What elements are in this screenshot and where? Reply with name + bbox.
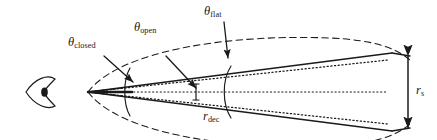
- theta-closed-label: θclosed: [68, 36, 96, 51]
- theta-open-label: θopen: [134, 21, 157, 36]
- closed-boundary-dashed: [88, 37, 412, 140]
- jet-apex: [88, 88, 132, 96]
- jet-geometry-figure: θclosed θopen θflat rdec rs: [0, 0, 437, 140]
- theta-flat-leader: [224, 22, 228, 58]
- r-dec-label: rdec: [203, 110, 220, 125]
- eye-icon: [26, 77, 55, 108]
- theta-flat-label: θflat: [204, 5, 222, 20]
- theta-closed-leader: [104, 56, 133, 82]
- r-s-label: rs: [416, 84, 424, 99]
